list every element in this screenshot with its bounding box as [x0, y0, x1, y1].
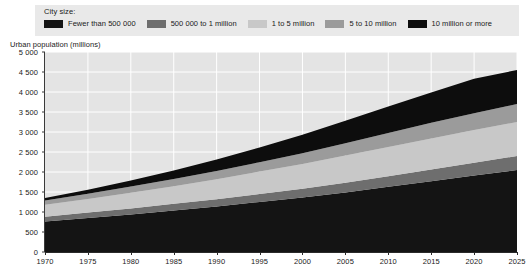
x-tick-mark [260, 252, 261, 255]
x-tick-label: 1980 [122, 257, 139, 266]
legend-item-label: 10 million or more [432, 19, 493, 28]
y-axis: 5 0004 5004 0003 5003 0002 5002 0001 500… [0, 52, 45, 252]
x-axis: 1970197519801985199019952000200520102015… [45, 252, 517, 272]
legend-item[interactable]: 10 million or more [408, 19, 493, 28]
plot-area [45, 52, 517, 252]
x-tick-mark [388, 252, 389, 255]
legend-items: Fewer than 500 000500 000 to 1 million1 … [44, 19, 503, 28]
x-tick-label: 1970 [36, 257, 53, 266]
legend-swatch-icon [325, 20, 344, 28]
x-tick-label: 1975 [79, 257, 96, 266]
legend-item[interactable]: 1 to 5 million [248, 19, 315, 28]
legend-item-label: 1 to 5 million [272, 19, 315, 28]
x-tick-label: 2015 [423, 257, 440, 266]
legend-item[interactable]: 5 to 10 million [325, 19, 396, 28]
legend-swatch-icon [147, 20, 166, 28]
y-tick-label: 0 [34, 248, 38, 257]
legend-swatch-icon [408, 20, 427, 28]
legend-title: City size: [44, 7, 75, 16]
legend-item-label: Fewer than 500 000 [68, 19, 136, 28]
x-tick-mark [174, 252, 175, 255]
x-tick-label: 2000 [294, 257, 311, 266]
x-tick-mark [88, 252, 89, 255]
x-tick-label: 2020 [466, 257, 483, 266]
x-tick-mark [517, 252, 518, 255]
y-tick-label: 1 500 [19, 188, 38, 197]
x-tick-mark [431, 252, 432, 255]
x-tick-label: 1990 [208, 257, 225, 266]
x-axis-line [45, 252, 517, 253]
x-tick-label: 2010 [380, 257, 397, 266]
x-tick-label: 1995 [251, 257, 268, 266]
x-tick-label: 2005 [337, 257, 354, 266]
x-tick-mark [131, 252, 132, 255]
x-tick-mark [474, 252, 475, 255]
chart-legend: City size: Fewer than 500 000500 000 to … [35, 5, 519, 36]
x-tick-label: 2025 [508, 257, 525, 266]
legend-item[interactable]: 500 000 to 1 million [147, 19, 237, 28]
y-tick-label: 500 [25, 228, 38, 237]
x-tick-mark [345, 252, 346, 255]
y-tick-label: 4 500 [19, 68, 38, 77]
x-tick-label: 1985 [165, 257, 182, 266]
legend-item-label: 500 000 to 1 million [171, 19, 237, 28]
y-tick-label: 1 000 [19, 208, 38, 217]
legend-item-label: 5 to 10 million [349, 19, 396, 28]
y-tick-label: 3 500 [19, 108, 38, 117]
x-tick-mark [217, 252, 218, 255]
y-tick-label: 4 000 [19, 88, 38, 97]
y-tick-label: 5 000 [19, 48, 38, 57]
legend-swatch-icon [44, 20, 63, 28]
y-tick-label: 2 500 [19, 148, 38, 157]
stacked-area-svg [45, 52, 517, 252]
x-tick-mark [302, 252, 303, 255]
x-tick-mark [45, 252, 46, 255]
legend-item[interactable]: Fewer than 500 000 [44, 19, 136, 28]
y-tick-label: 2 000 [19, 168, 38, 177]
y-tick-label: 3 000 [19, 128, 38, 137]
legend-swatch-icon [248, 20, 267, 28]
